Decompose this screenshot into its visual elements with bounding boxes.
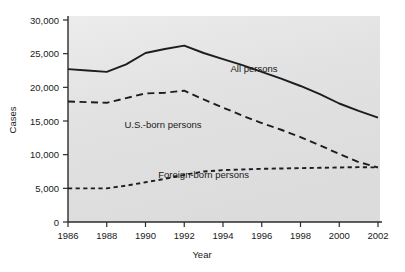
- y-tick-label: 15,000: [30, 116, 59, 127]
- y-tick-label: 20,000: [30, 82, 59, 93]
- chart-figure: 05,00010,00015,00020,00025,00030,000 198…: [0, 0, 405, 272]
- x-axis-title: Year: [192, 249, 211, 260]
- x-tick-label: 1988: [96, 230, 117, 241]
- x-tick-label: 2000: [329, 230, 350, 241]
- x-tick-label: 1992: [174, 230, 195, 241]
- x-tick-label: 2002: [367, 230, 388, 241]
- y-axis-tick-labels: 05,00010,00015,00020,00025,00030,000: [30, 15, 59, 228]
- series-label-2: Foreign-born persons: [158, 169, 249, 180]
- y-tick-label: 10,000: [30, 149, 59, 160]
- x-tick-label: 1996: [251, 230, 272, 241]
- y-tick-label: 5,000: [35, 183, 59, 194]
- y-tick-label: 30,000: [30, 15, 59, 26]
- x-axis-tick-labels: 198619881990199219941996199820002002: [57, 230, 388, 241]
- y-tick-label: 0: [54, 217, 59, 228]
- x-tick-label: 1990: [135, 230, 156, 241]
- x-axis-ticks: [68, 222, 378, 227]
- plot-area-background: [68, 16, 380, 222]
- series-label-1: U.S.-born persons: [124, 119, 201, 130]
- scan-artifact: [305, 254, 401, 270]
- y-axis-ticks: [63, 20, 68, 222]
- y-tick-label: 25,000: [30, 48, 59, 59]
- x-tick-label: 1994: [212, 230, 233, 241]
- x-tick-label: 1986: [57, 230, 78, 241]
- y-axis-title: Cases: [7, 106, 18, 133]
- line-chart: 05,00010,00015,00020,00025,00030,000 198…: [0, 0, 405, 272]
- series-label-0: All persons: [231, 63, 278, 74]
- x-tick-label: 1998: [290, 230, 311, 241]
